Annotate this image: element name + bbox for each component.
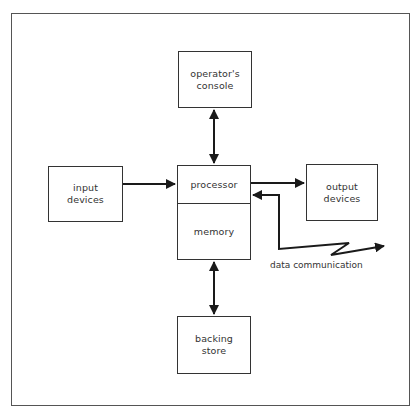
processor-label: processor <box>190 179 237 191</box>
input-devices-label: input devices <box>67 182 104 206</box>
memory-section: memory <box>178 204 250 259</box>
processor-memory-box: processor memory <box>177 165 251 260</box>
output-devices-box: output devices <box>306 164 378 221</box>
backing-store-label: backing store <box>195 333 233 357</box>
operators-console-label: operator's console <box>190 68 239 92</box>
data-communication-label: data communication <box>270 260 363 270</box>
memory-label: memory <box>194 226 234 238</box>
input-devices-box: input devices <box>48 166 123 222</box>
output-devices-label: output devices <box>324 181 361 205</box>
operators-console-box: operator's console <box>178 51 252 108</box>
backing-store-box: backing store <box>177 316 251 374</box>
processor-section: processor <box>178 166 250 204</box>
